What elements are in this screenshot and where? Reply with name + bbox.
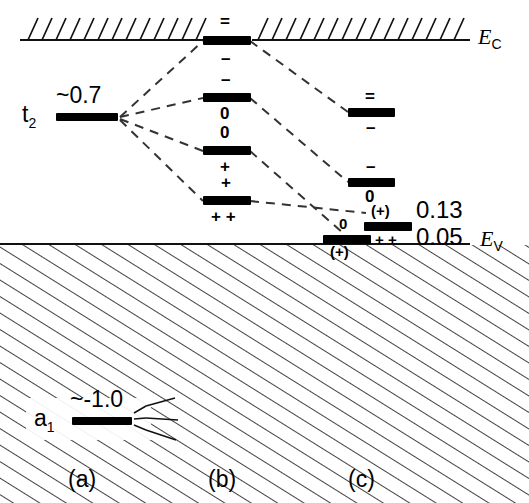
conduction-band-hatch-right [258,18,464,40]
charge-b-4-above: + [221,174,231,191]
ev-symbol: E [480,226,493,251]
level-c-2 [348,178,395,187]
label-orbital-a1: a1 [34,407,55,434]
charge-c-4-above: 0 [339,216,347,231]
connectors-a-to-b [120,41,203,201]
valence-band-region [0,244,529,503]
charge-b-3-above: 0 [220,124,229,141]
charge-c-1-above: = [365,88,375,105]
charge-c-4-below: (+) [330,244,349,259]
charge-b-2-above: – [221,71,230,88]
connectors-b-to-c [250,41,366,233]
label-energy-t2: ~0.7 [56,84,101,107]
ec-subscript: C [491,36,501,52]
energy-level-figure: t2 ~0.7 a1 ~-1.0 = – – 0 0 + + + + = – –… [0,0,529,503]
level-b-2 [203,93,251,102]
value-c-4: 0.05 [416,225,463,249]
level-a-a1 [72,417,132,425]
column-label-c: (c) [348,468,375,491]
label-orbital-t2: t2 [22,103,36,130]
level-c-1 [348,108,395,117]
ec-symbol: E [478,24,491,49]
charge-c-1-below: – [366,119,375,136]
column-label-b: (b) [208,468,236,491]
charge-b-4-below: + + [211,208,236,225]
label-valence-band-edge: EV [480,228,503,253]
column-label-a: (a) [68,468,96,491]
charge-c-2-above: – [366,158,375,175]
ev-subscript: V [493,238,502,254]
level-c-3 [364,222,412,231]
level-b-4 [203,196,251,205]
level-b-1 [203,36,251,45]
charge-c-3-above: (+) [371,203,390,218]
value-c-3: 0.13 [416,198,463,222]
label-conduction-band-edge: EC [478,26,502,51]
label-energy-a1: ~-1.0 [70,388,123,411]
diagram-canvas [0,0,529,503]
charge-b-1-below: – [221,50,230,67]
conduction-band-hatch-left [28,18,206,40]
charge-c-3-below: + + [375,232,397,247]
level-a-t2 [56,113,118,121]
charge-b-2-below: 0 [220,105,229,122]
level-b-3 [203,146,251,155]
charge-b-1-above: = [220,13,230,30]
